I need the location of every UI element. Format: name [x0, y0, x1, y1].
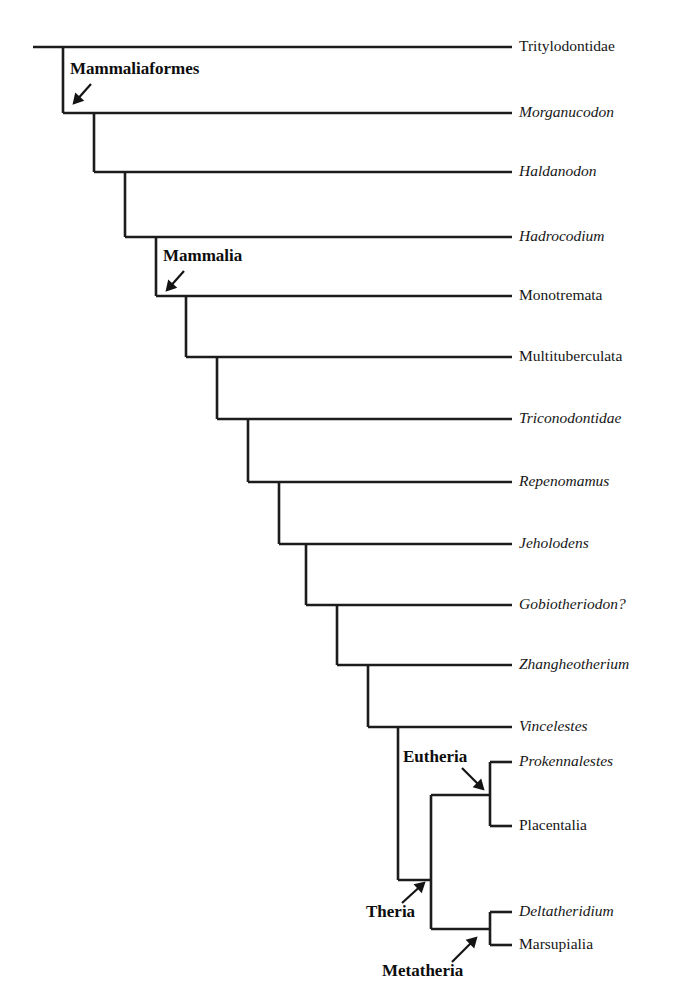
tip-label-5: Multituberculata — [519, 347, 622, 364]
tip-label-3: Hadrocodium — [518, 227, 605, 244]
cladogram-figure: TritylodontidaeMorganucodonHaldanodonHad… — [0, 0, 676, 1001]
tip-label-14: Deltatheridium — [518, 902, 614, 919]
clade-label-mammalia: Mammalia — [163, 246, 243, 265]
tip-label-10: Zhangheotherium — [519, 655, 629, 672]
arrow-icon-shaft-theria — [402, 888, 418, 903]
tip-label-11: Vincelestes — [519, 717, 588, 734]
clade-label-mammaliaformes: Mammaliaformes — [70, 59, 200, 78]
arrow-icon-shaft-metatheria — [452, 943, 471, 962]
arrow-icon-shaft-eutheria — [462, 768, 478, 784]
tip-label-0: Tritylodontidae — [519, 37, 615, 54]
tip-label-group: TritylodontidaeMorganucodonHaldanodonHad… — [518, 37, 629, 952]
clade-label-metatheria: Metatheria — [382, 961, 464, 980]
tip-label-2: Haldanodon — [518, 162, 597, 179]
tip-label-4: Monotremata — [519, 286, 603, 303]
tip-label-15: Marsupialia — [519, 935, 593, 952]
tip-label-1: Morganucodon — [518, 103, 614, 120]
clade-label-theria: Theria — [366, 902, 416, 921]
arrow-icon-shaft-mammalia — [172, 271, 184, 284]
tip-label-12: Prokennalestes — [518, 752, 613, 769]
tip-label-9: Gobiotheriodon? — [519, 595, 626, 612]
tip-label-8: Jeholodens — [519, 534, 589, 551]
branch-group — [33, 47, 512, 945]
clade-annotation-group: MammaliaformesMammaliaEutheriaTheriaMeta… — [70, 59, 483, 980]
tip-label-7: Repenomamus — [518, 472, 609, 489]
tip-label-6: Triconodontidae — [519, 409, 622, 426]
arrow-icon-shaft-mammaliaformes — [79, 84, 91, 97]
tip-label-13: Placentalia — [519, 816, 587, 833]
clade-label-eutheria: Eutheria — [403, 747, 468, 766]
phylogenetic-tree-svg: TritylodontidaeMorganucodonHaldanodonHad… — [0, 0, 676, 1001]
